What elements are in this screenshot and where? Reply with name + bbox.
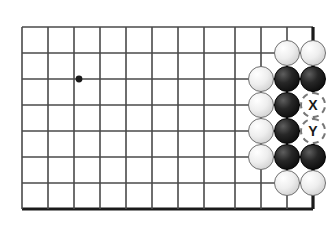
stone-white-c11-r7[interactable] bbox=[274, 170, 300, 196]
marker-x-label: X bbox=[308, 98, 317, 112]
stone-white-c10-r6[interactable] bbox=[248, 144, 274, 170]
marker-y-label: Y bbox=[308, 124, 317, 138]
stone-white-c12-r2[interactable] bbox=[300, 40, 326, 66]
stone-black-c12-r3[interactable] bbox=[300, 66, 326, 92]
stone-white-c10-r3[interactable] bbox=[248, 66, 274, 92]
stone-black-c11-r4[interactable] bbox=[274, 92, 300, 118]
marker-x[interactable]: X bbox=[300, 92, 326, 118]
marker-y[interactable]: Y bbox=[300, 118, 326, 144]
stone-black-c11-r6[interactable] bbox=[274, 144, 300, 170]
stone-black-c11-r5[interactable] bbox=[274, 118, 300, 144]
stone-white-c10-r5[interactable] bbox=[248, 118, 274, 144]
stone-black-c12-r6[interactable] bbox=[300, 144, 326, 170]
stone-layer: XY bbox=[0, 0, 331, 238]
stone-white-c11-r2[interactable] bbox=[274, 40, 300, 66]
stone-white-c12-r7[interactable] bbox=[300, 170, 326, 196]
stone-white-c10-r4[interactable] bbox=[248, 92, 274, 118]
go-board[interactable]: XY bbox=[0, 0, 331, 238]
stone-black-c11-r3[interactable] bbox=[274, 66, 300, 92]
